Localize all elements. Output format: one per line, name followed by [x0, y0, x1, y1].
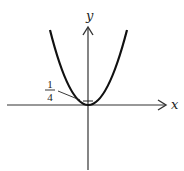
- y-axis: [83, 27, 93, 170]
- graph-canvas: y x 1 4: [0, 0, 184, 171]
- y-axis-label: y: [85, 8, 94, 23]
- x-axis-label: x: [171, 97, 179, 112]
- annotation-leader-line: [58, 91, 80, 100]
- fraction-numerator: 1: [47, 78, 53, 90]
- fraction-label: 1 4: [45, 78, 55, 103]
- fraction-denominator: 4: [47, 91, 53, 103]
